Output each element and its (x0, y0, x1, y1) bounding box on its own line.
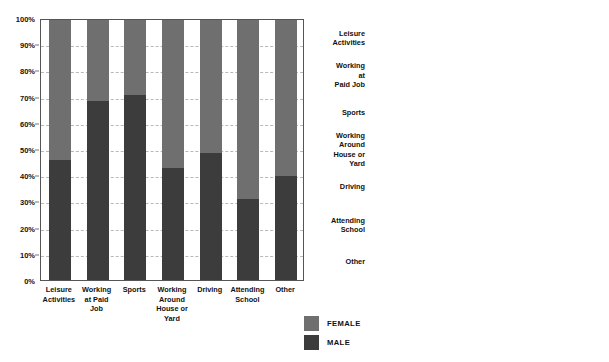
legend-item-male: MALE (304, 335, 444, 350)
legend-item-female: FEMALE (304, 316, 444, 331)
episodes-rate-chart-panel: LeisureActivitiesWorkingatPaid JobSports… (310, 0, 609, 362)
x-axis-category-line: School (224, 295, 270, 305)
y-axis-tick-label: 100% (0, 15, 35, 24)
x-axis-category-line: Yard (149, 314, 195, 324)
x-axis-category-label: Other (262, 285, 308, 295)
y-axis-tick-label: 50% (0, 146, 35, 155)
y-axis-tick-label: 90% (0, 41, 35, 50)
y-axis-tick-label: 60% (0, 119, 35, 128)
stacked-percent-chart-panel: 0%10%20%30%40%50%60%70%80%90%100% Leisur… (0, 0, 310, 362)
y-axis-tick-mark (35, 228, 39, 229)
legend-swatch-male-icon (304, 335, 319, 350)
x-axis-category-line: at Paid (74, 295, 120, 305)
y-axis-tick-label: 20% (0, 224, 35, 233)
x-axis-category-line: Around (149, 295, 195, 305)
y-axis-tick-mark (35, 176, 39, 177)
y-axis-tick-mark (35, 97, 39, 98)
x-axis-category-line: House or (149, 304, 195, 314)
y-axis-tick-label: 40% (0, 172, 35, 181)
legend-label-female: FEMALE (327, 319, 361, 328)
chart-legend: FEMALE MALE (304, 316, 444, 354)
x-axis-category-line: Other (262, 285, 308, 295)
y-axis-tick-mark (35, 71, 39, 72)
y-axis-tick-label: 0% (0, 277, 35, 286)
y-axis-tick-mark (35, 45, 39, 46)
x-axis-category-line: Job (74, 304, 120, 314)
rate-chart-x-axis: 05101520253035 (310, 0, 609, 362)
y-axis-tick-label: 80% (0, 67, 35, 76)
y-axis-tick-mark (35, 254, 39, 255)
y-axis-tick-label: 70% (0, 93, 35, 102)
y-axis-tick-mark (35, 150, 39, 151)
y-axis-tick-label: 10% (0, 250, 35, 259)
y-axis-tick-mark (35, 123, 39, 124)
y-axis-tick-mark (35, 202, 39, 203)
legend-label-male: MALE (327, 338, 350, 347)
y-axis-tick-label: 30% (0, 198, 35, 207)
stacked-chart-y-axis: 0%10%20%30%40%50%60%70%80%90%100% (0, 19, 310, 281)
legend-swatch-female-icon (304, 316, 319, 331)
